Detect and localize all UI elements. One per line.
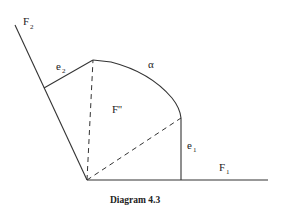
label-alpha: α [148,58,154,70]
label-e1: e 1 [187,139,197,154]
svg-text:2: 2 [62,67,66,75]
label-f1: F 1 [219,161,230,176]
svg-text:1: 1 [226,168,230,176]
f2-axis-line [15,25,87,180]
svg-text:2: 2 [30,23,34,31]
dashed-line-to-top [87,60,93,180]
svg-text:F: F [23,15,29,27]
alpha-curve [93,60,181,118]
label-f-double-prime: F'' [112,103,122,115]
dashed-line-to-right [87,118,181,180]
svg-text:1: 1 [193,146,197,154]
label-f2: F 2 [23,15,34,31]
svg-text:e: e [187,139,192,151]
e2-segment [44,60,93,88]
label-e2: e 2 [56,60,66,75]
diagram-canvas: F 2 e 2 α F'' e 1 F 1 Diagram 4.3 [0,0,282,207]
diagram-caption: Diagram 4.3 [110,195,160,205]
svg-text:e: e [56,60,61,72]
svg-text:F: F [219,161,225,173]
